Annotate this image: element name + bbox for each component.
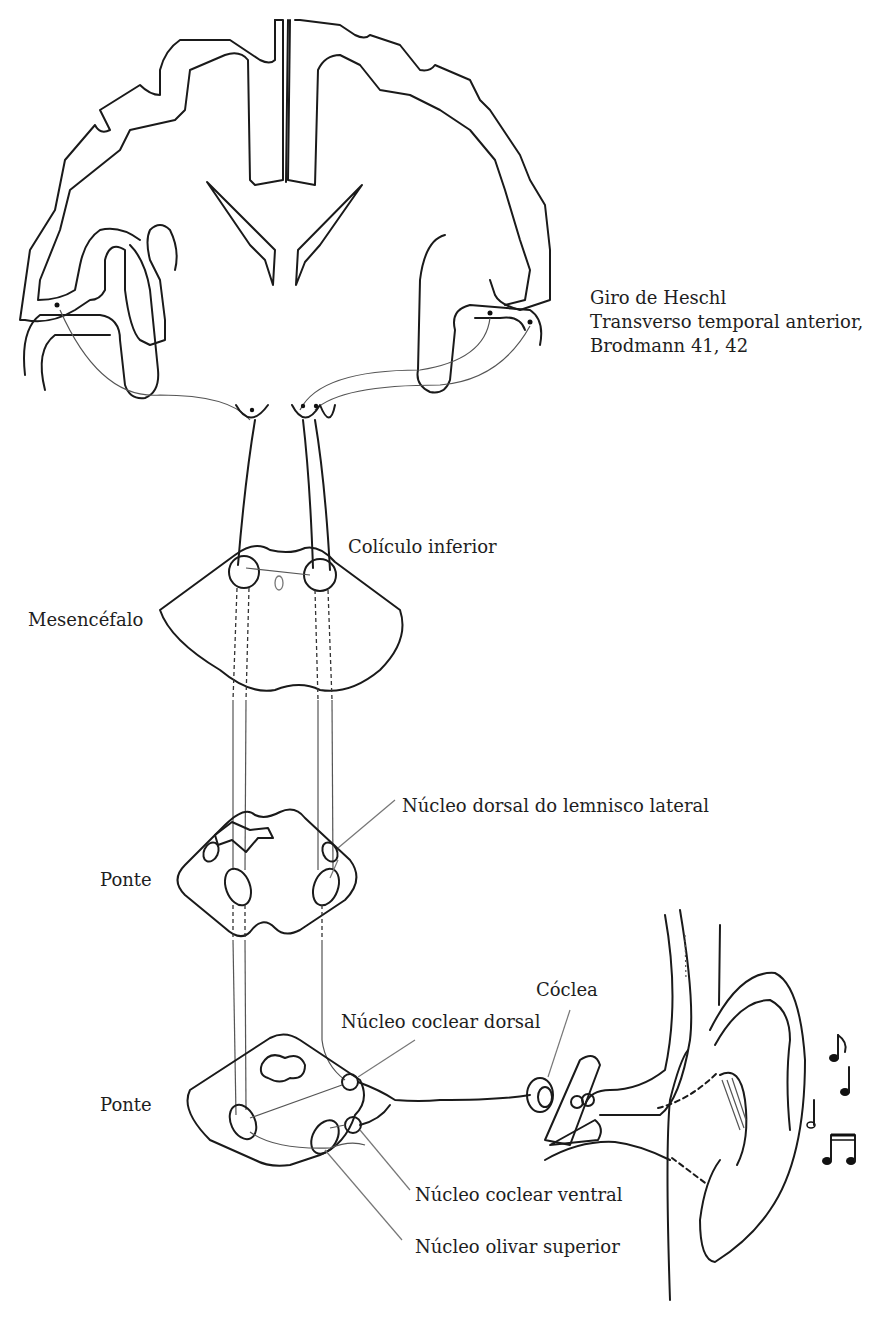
label-heschl-gyrus: Giro de Heschl (590, 286, 726, 310)
label-pons-lower: Ponte (100, 1093, 152, 1117)
label-inferior-colliculus: Colículo inferior (348, 535, 497, 559)
label-brodmann: Brodmann 41, 42 (590, 334, 748, 358)
lateral-lemniscus-tracts (233, 700, 333, 870)
label-ventral-cochlear-nucleus: Núcleo coclear ventral (415, 1183, 623, 1207)
label-heschl-area: Transverso temporal anterior, (590, 310, 863, 334)
midbrain-section (160, 546, 403, 700)
lower-pons-section (188, 1034, 531, 1240)
medial-geniculate-relays (236, 404, 335, 570)
music-notes (807, 1035, 856, 1165)
label-superior-olivary-nucleus: Núcleo olivar superior (415, 1235, 620, 1259)
label-midbrain: Mesencéfalo (28, 608, 143, 632)
auditory-pathway-diagram (0, 0, 884, 1339)
label-dorsal-cochlear-nucleus: Núcleo coclear dorsal (341, 1010, 541, 1034)
label-pons-upper: Ponte (100, 868, 152, 892)
upper-pons-section (178, 800, 396, 940)
brain-coronal-section (20, 20, 550, 420)
label-lateral-lemniscus-nucleus: Núcleo dorsal do lemnisco lateral (402, 794, 709, 818)
lower-tracts (233, 940, 345, 1115)
label-cochlea: Cóclea (536, 978, 598, 1002)
